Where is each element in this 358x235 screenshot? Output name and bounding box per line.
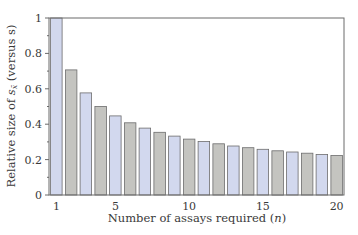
bar-n-2 — [65, 70, 77, 195]
bar-n-13 — [228, 146, 240, 195]
bar-n-7 — [139, 128, 151, 195]
bar-n-17 — [287, 152, 299, 195]
y-tick-label: 0.4 — [25, 118, 43, 131]
bars-group — [51, 18, 343, 195]
bar-n-5 — [110, 116, 122, 195]
bar-n-3 — [80, 93, 92, 195]
bar-n-6 — [124, 123, 135, 195]
y-axis-ticks: 00.20.40.60.81 — [25, 12, 50, 202]
x-tick-label: 20 — [330, 200, 344, 213]
y-tick-label: 0.2 — [25, 154, 43, 167]
bar-n-8 — [154, 132, 166, 195]
bar-n-9 — [169, 136, 181, 195]
bar-n-16 — [272, 151, 284, 195]
bar-n-10 — [183, 139, 195, 195]
bar-n-20 — [331, 155, 343, 195]
plot-frame — [49, 18, 344, 195]
x-axis-label: Number of assays required (n) — [108, 211, 287, 225]
bar-n-12 — [213, 144, 225, 195]
bar-n-18 — [301, 153, 313, 195]
y-tick-label: 1 — [35, 12, 42, 25]
bar-n-15 — [257, 149, 269, 195]
bar-n-19 — [316, 155, 328, 196]
bar-n-4 — [95, 107, 107, 196]
axes-box — [49, 18, 344, 195]
y-tick-label: 0.8 — [25, 47, 43, 60]
bar-n-11 — [198, 142, 210, 196]
bar-n-14 — [242, 148, 254, 195]
y-axis-label: Relative size of sx̄ (versus s) — [4, 25, 19, 188]
y-tick-label: 0 — [35, 189, 42, 202]
bar-chart: 00.20.40.60.81 15101520 Number of assays… — [0, 0, 358, 235]
y-tick-label: 0.6 — [25, 83, 43, 96]
bar-n-1 — [51, 18, 63, 195]
x-tick-label: 1 — [53, 200, 60, 213]
